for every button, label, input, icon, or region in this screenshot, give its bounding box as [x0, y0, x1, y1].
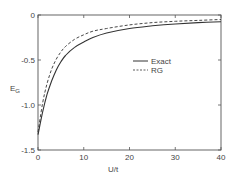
series-lines — [38, 20, 221, 135]
series-rg — [38, 20, 221, 133]
series-exact — [38, 22, 221, 135]
line-chart: 010203040 0-0.5-1.0-1.5 U/t EG Exact RG — [0, 0, 238, 180]
x-tick-label: 0 — [36, 153, 41, 162]
y-tick-label: 0 — [31, 11, 36, 20]
x-tick-label: 10 — [79, 153, 88, 162]
legend-label-rg: RG — [151, 66, 163, 75]
x-axis-ticks: 010203040 — [36, 15, 226, 162]
x-axis-label: U/t — [108, 165, 119, 174]
x-tick-label: 20 — [125, 153, 134, 162]
y-axis-label: EG — [10, 84, 20, 94]
y-tick-label: -0.5 — [21, 56, 35, 65]
legend-label-exact: Exact — [151, 57, 172, 66]
legend: Exact RG — [133, 57, 172, 75]
x-tick-label: 30 — [171, 153, 180, 162]
x-tick-label: 40 — [217, 153, 226, 162]
y-tick-label: -1.5 — [21, 146, 35, 155]
plot-frame — [38, 15, 221, 150]
y-tick-label: -1.0 — [21, 101, 35, 110]
